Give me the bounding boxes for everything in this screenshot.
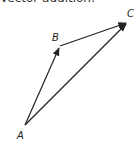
label-b: B xyxy=(52,32,59,43)
vector-ab xyxy=(25,48,59,125)
label-c: C xyxy=(127,8,134,19)
label-a: A xyxy=(16,130,24,141)
vector-ac xyxy=(25,24,126,125)
vector-diagram: A B C xyxy=(0,0,140,141)
